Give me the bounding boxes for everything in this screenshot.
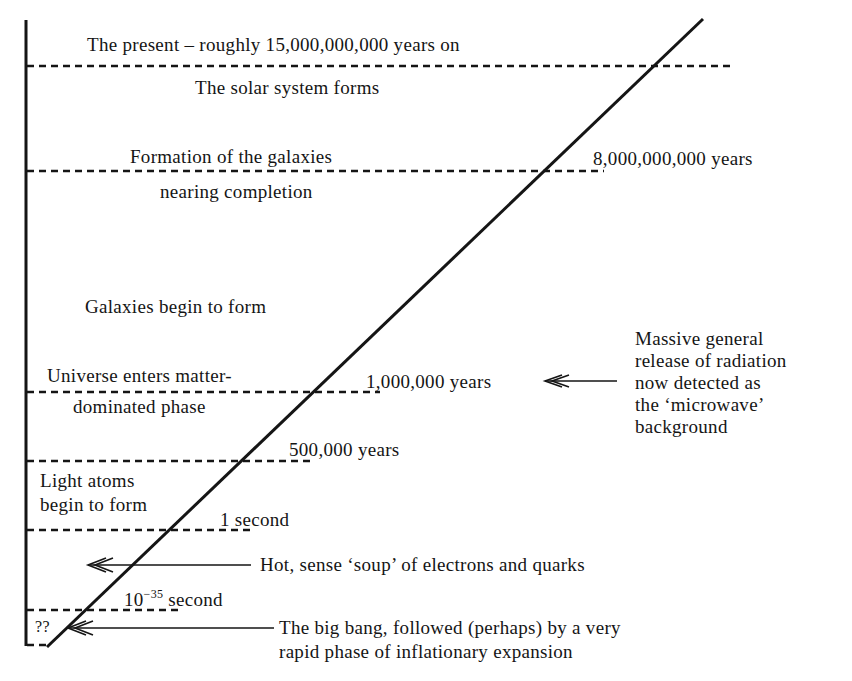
- label-solar-system: The solar system forms: [195, 77, 379, 99]
- label-light-atoms-1: Light atoms: [40, 470, 135, 492]
- time-500k-years: 500,000 years: [289, 439, 400, 461]
- time-planck-base: 10: [124, 589, 144, 610]
- time-8b-years: 8,000,000,000 years: [593, 148, 753, 170]
- label-galaxies-completion-2: nearing completion: [160, 181, 313, 203]
- note-microwave-line-4: the ‘microwave’: [635, 394, 765, 416]
- note-microwave-line-5: background: [635, 416, 728, 438]
- note-microwave-line-2: release of radiation: [635, 350, 787, 372]
- note-big-bang-1: The big bang, followed (perhaps) by a ve…: [279, 617, 621, 639]
- arrow-bigbang-icon: [68, 621, 274, 635]
- note-microwave-line-3: now detected as: [635, 372, 761, 394]
- arrow-soup-icon: [88, 558, 251, 572]
- time-1m-years: 1,000,000 years: [366, 371, 491, 393]
- label-present: The present – roughly 15,000,000,000 yea…: [87, 34, 460, 56]
- note-big-bang-2: rapid phase of inflationary expansion: [279, 641, 573, 663]
- time-planck: 10−35 second: [124, 589, 223, 611]
- label-matter-phase-2: dominated phase: [73, 396, 206, 418]
- label-unknown: ??: [35, 616, 50, 638]
- time-planck-unit: second: [163, 589, 223, 610]
- note-microwave-line-1: Massive general: [635, 328, 763, 350]
- arrow-microwave-icon: [545, 375, 617, 387]
- label-galaxies-completion-1: Formation of the galaxies: [130, 146, 332, 168]
- label-matter-phase-1: Universe enters matter-: [47, 365, 232, 387]
- label-galaxies-begin: Galaxies begin to form: [85, 296, 266, 318]
- time-planck-exponent: −35: [144, 587, 164, 601]
- note-quark-soup: Hot, sense ‘soup’ of electrons and quark…: [260, 554, 585, 576]
- expansion-line: [47, 19, 703, 647]
- label-light-atoms-2: begin to form: [40, 494, 147, 516]
- time-1-second: 1 second: [220, 509, 289, 531]
